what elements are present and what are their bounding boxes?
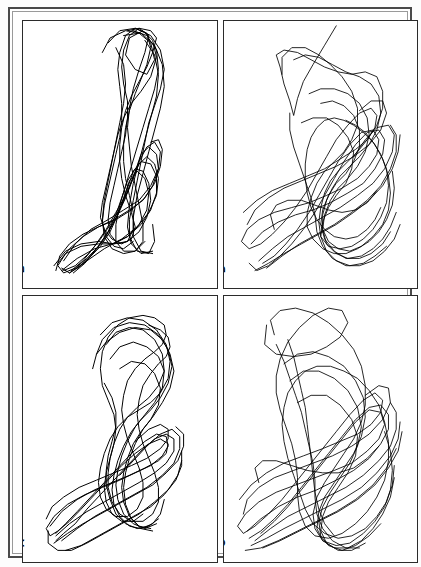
panel-a-lower-trace <box>46 424 183 550</box>
plate-outer-frame: B <box>8 7 412 558</box>
panel-d-label: D <box>223 265 227 284</box>
figure-root: B <box>0 0 421 567</box>
panel-c-traces <box>224 296 418 563</box>
panel-grid: B <box>22 20 418 563</box>
panel-c-upper-trace <box>264 308 394 550</box>
panel-a-upper-trace <box>93 315 174 531</box>
panel-a: A <box>22 295 218 564</box>
panel-d-upper-trace <box>276 26 400 266</box>
panel-c-label: C <box>223 539 227 558</box>
panel-c: C <box>223 295 419 564</box>
panel-a-traces <box>23 296 217 563</box>
panel-b-label: B <box>22 265 26 284</box>
panel-a-label: A <box>22 539 26 558</box>
panel-b: B <box>22 20 218 289</box>
panel-d-traces <box>224 21 418 288</box>
panel-d: D <box>223 20 419 289</box>
panel-b-traces <box>23 21 217 288</box>
